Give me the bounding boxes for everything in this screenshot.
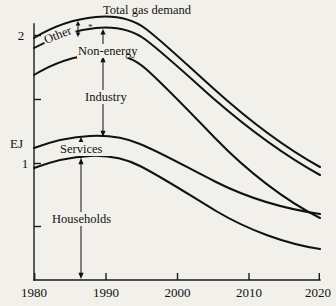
label-non-energy: Non-energy	[78, 44, 138, 58]
x-tick-label-1980: 1980	[21, 285, 47, 300]
chart-canvas: Total gas demand Other * Non-energy Indu…	[0, 0, 336, 306]
arrow-households-head-up	[78, 158, 83, 164]
y-axis-unit-label: EJ	[10, 136, 23, 151]
arrow-other-head-up	[76, 21, 81, 26]
label-total-gas-demand: Total gas demand	[103, 3, 192, 17]
x-tick-label-1990: 1990	[93, 285, 119, 300]
arrow-non-energy-head-up	[100, 29, 105, 34]
label-households: Households	[52, 212, 111, 226]
x-tick-label-2000: 2000	[165, 285, 191, 300]
label-industry: Industry	[85, 90, 127, 104]
series-line-households	[34, 156, 320, 249]
y-tick-label-2: 2	[18, 28, 25, 43]
gas-demand-chart: Total gas demand Other * Non-energy Indu…	[0, 0, 336, 306]
series-line-industry	[34, 54, 320, 218]
arrow-households-head-down	[78, 273, 83, 279]
y-tick-label-1: 1	[22, 156, 29, 171]
label-other: Other	[42, 23, 74, 47]
label-services: Services	[60, 142, 102, 156]
x-tick-label-2020: 2020	[305, 285, 331, 300]
label-footnote-star: *	[88, 22, 93, 32]
arrow-other-head-down	[76, 32, 81, 37]
x-tick-label-2010: 2010	[236, 285, 262, 300]
